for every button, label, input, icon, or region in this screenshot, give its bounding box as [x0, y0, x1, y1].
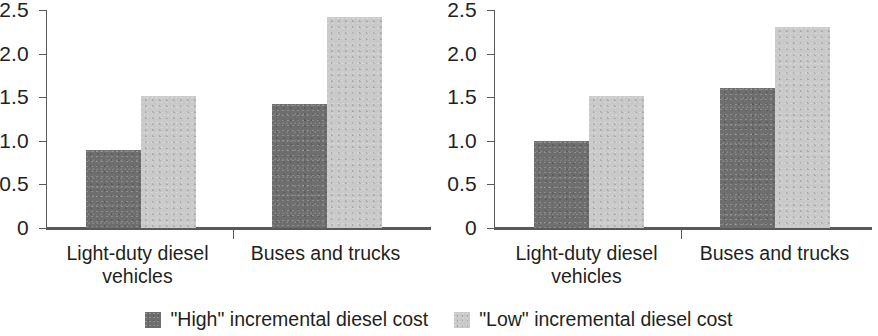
x-category-label-right-buses: Buses and trucks	[682, 242, 867, 265]
y-tick-label-1-5-left: 1.5	[0, 85, 29, 109]
y-tick-label-0-5-left: 0.5	[0, 172, 29, 196]
y-tick-0-right: 0	[487, 228, 494, 229]
bars-left	[46, 10, 431, 228]
bar-right-buses-high[interactable]	[720, 88, 775, 228]
chart-panel-right: 2.5 2.0 1.5 1.0 0.5 0	[439, 0, 878, 300]
chart-legend: "High" incremental diesel cost "Low" inc…	[0, 303, 878, 336]
x-category-label-left-buses: Buses and trucks	[233, 242, 418, 265]
legend-swatch-high-icon	[145, 312, 161, 328]
bars-right	[494, 10, 872, 228]
y-tick-label-1-5-right: 1.5	[447, 85, 477, 109]
y-tick-1-5-left: 1.5	[39, 97, 46, 98]
legend-label-low: "Low" incremental diesel cost	[479, 308, 732, 331]
bar-right-buses-low[interactable]	[775, 27, 830, 228]
legend-label-high: "High" incremental diesel cost	[170, 308, 428, 331]
chart-panels: 2.5 2.0 1.5 1.0 0.5 0	[0, 0, 878, 300]
y-tick-2-0-left: 2.0	[39, 54, 46, 55]
x-group-separator-tick-right	[681, 230, 682, 239]
y-tick-0-5-left: 0.5	[39, 184, 46, 185]
y-tick-label-0-5-right: 0.5	[447, 172, 477, 196]
legend-item-high[interactable]: "High" incremental diesel cost	[145, 308, 428, 331]
x-category-label-right-ldv: Light-duty diesel vehicles	[494, 242, 679, 288]
chart-panel-left: 2.5 2.0 1.5 1.0 0.5 0	[0, 0, 439, 300]
bar-left-buses-low[interactable]	[327, 17, 382, 228]
y-tick-0-left: 0	[39, 228, 46, 229]
y-tick-label-1-0-right: 1.0	[447, 129, 477, 153]
y-tick-label-0-left: 0	[17, 216, 29, 240]
plot-area-left: 2.5 2.0 1.5 1.0 0.5 0	[46, 10, 431, 232]
y-tick-label-2-0-left: 2.0	[0, 42, 29, 66]
y-tick-2-5-right: 2.5	[487, 10, 494, 11]
y-tick-2-5-left: 2.5	[39, 10, 46, 11]
x-category-label-left-ldv: Light-duty diesel vehicles	[45, 242, 230, 288]
bar-left-ldv-low[interactable]	[141, 96, 196, 228]
legend-swatch-low-icon	[454, 312, 470, 328]
y-tick-label-1-0-left: 1.0	[0, 129, 29, 153]
y-tick-1-5-right: 1.5	[487, 97, 494, 98]
y-tick-2-0-right: 2.0	[487, 54, 494, 55]
y-tick-0-5-right: 0.5	[487, 184, 494, 185]
bar-right-ldv-low[interactable]	[589, 96, 644, 228]
y-tick-1-0-right: 1.0	[487, 141, 494, 142]
legend-item-low[interactable]: "Low" incremental diesel cost	[454, 308, 732, 331]
y-tick-label-2-0-right: 2.0	[447, 42, 477, 66]
y-tick-1-0-left: 1.0	[39, 141, 46, 142]
bar-left-ldv-high[interactable]	[86, 150, 141, 229]
figure-two-panel-bar-chart: 2.5 2.0 1.5 1.0 0.5 0	[0, 0, 878, 336]
plot-area-right: 2.5 2.0 1.5 1.0 0.5 0	[494, 10, 872, 232]
y-tick-label-2-5-left: 2.5	[0, 0, 29, 22]
y-tick-label-0-right: 0	[465, 216, 477, 240]
bar-right-ldv-high[interactable]	[534, 141, 589, 228]
bar-left-buses-high[interactable]	[272, 104, 327, 228]
y-tick-label-2-5-right: 2.5	[447, 0, 477, 22]
x-group-separator-tick-left	[233, 230, 234, 239]
